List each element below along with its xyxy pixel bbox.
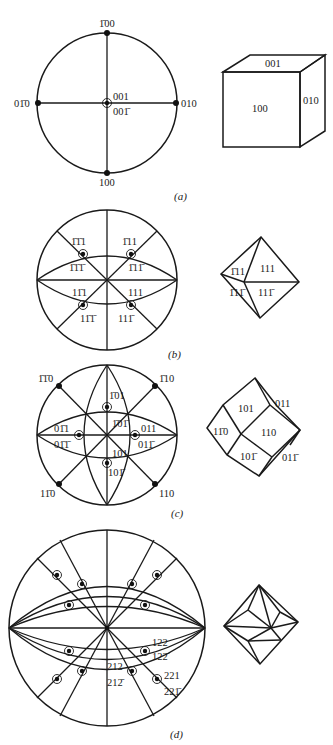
face-label: 101̄ (240, 451, 258, 462)
face-label: 111 (260, 263, 275, 274)
stereogram-a: 1̄00 100 01̄0 010 001 001̄ (14, 18, 197, 188)
pole-label: 221̄ (164, 686, 182, 697)
pole-label: 001̄ (113, 106, 131, 117)
pole-label: 1̄1̄1̄ (69, 262, 86, 273)
pole-label: 11̄1 (72, 287, 87, 298)
stereogram-b: 1̄1̄1 1̄1̄1̄ 1̄11 1̄11̄ 11̄1 11̄1̄ 111 1… (37, 210, 177, 350)
pole-label: 11̄0 (40, 488, 55, 499)
pole-label: 101̄ (108, 467, 126, 478)
face-label: 011 (275, 398, 290, 409)
crystallography-figure: 1̄00 100 01̄0 010 001 001̄ 001 100 010 (… (0, 0, 333, 745)
pole-dot (35, 100, 41, 106)
pole-label: 1̄1̄0 (38, 373, 53, 384)
octahedron-solid: 1̄11 111 1̄11̄ 111̄ (221, 237, 299, 318)
pole-label: 212 (107, 661, 123, 672)
face-label: 111̄ (258, 287, 275, 298)
pole-label: 110 (159, 488, 174, 499)
face-label: 1̄11̄ (229, 287, 246, 298)
face-label: 110 (261, 427, 276, 438)
pole-label: 011̄ (138, 439, 155, 450)
pole-label: 100 (99, 177, 115, 188)
pole-label: 11̄1̄ (80, 313, 97, 324)
pole-label: 1̄00 (99, 18, 115, 29)
pole-dot (105, 101, 109, 105)
pole-label: 122 (152, 637, 168, 648)
pole-label: 011 (141, 423, 156, 434)
panel-caption: (d) (170, 728, 183, 741)
pole-label: 01̄0 (14, 98, 30, 109)
panel-d: 122 122̄ 212 212̄ 221 221̄ (d) (9, 530, 298, 741)
stereogram-d: 122 122̄ 212 212̄ 221 221̄ (9, 530, 205, 726)
cube-solid: 001 100 010 (223, 55, 325, 147)
face-label: 010 (303, 95, 319, 106)
trapezohedron-solid (224, 585, 298, 664)
pole-label: 1̄11 (122, 236, 137, 247)
panel-b: 1̄1̄1 1̄1̄1̄ 1̄11 1̄11̄ 11̄1 11̄1̄ 111 1… (37, 210, 299, 361)
pole-label: 111̄ (118, 313, 135, 324)
pole-label: 1̄01 (109, 390, 125, 401)
pole-label: 1̄1̄1 (71, 236, 86, 247)
stereogram-c: 1̄1̄0 1̄10 11̄0 110 1̄01 1̄01̄ 01̄1 01̄1… (37, 365, 177, 505)
panel-caption: (c) (171, 507, 184, 520)
pole-label: 1̄01̄ (112, 418, 130, 429)
panel-c: 1̄1̄0 1̄10 11̄0 110 1̄01 1̄01̄ 01̄1 01̄1… (37, 365, 300, 520)
pole-label: 101 (112, 448, 128, 459)
face-label: 101 (238, 403, 254, 414)
pole-label: 212̄ (107, 677, 125, 688)
pole-dot (105, 626, 109, 630)
panel-caption: (a) (174, 190, 187, 203)
face-label: 1̄11 (230, 266, 245, 277)
pole-label: 1̄10 (159, 373, 174, 384)
pole-label: 111 (128, 287, 143, 298)
pole-label: 01̄1̄ (54, 439, 71, 450)
pole-dot (104, 30, 110, 36)
pole-label: 1̄11̄ (128, 262, 145, 273)
pole-label: 001 (113, 91, 129, 102)
face-label: 011̄ (282, 452, 299, 463)
pole-dot (104, 170, 110, 176)
face-label: 11̄0 (213, 426, 228, 437)
pole-label: 01̄1 (54, 423, 69, 434)
panel-a: 1̄00 100 01̄0 010 001 001̄ 001 100 010 (… (14, 18, 325, 203)
pole-label: 010 (181, 98, 197, 109)
pole-label: 221 (164, 670, 180, 681)
pole-label: 122̄ (152, 651, 170, 662)
face-label: 100 (252, 103, 268, 114)
face-label: 001 (265, 58, 281, 69)
rhombic-dodecahedron-solid: 101 011 11̄0 110 101̄ 011̄ (207, 378, 300, 476)
pole-dot (173, 100, 179, 106)
panel-caption: (b) (168, 348, 181, 361)
